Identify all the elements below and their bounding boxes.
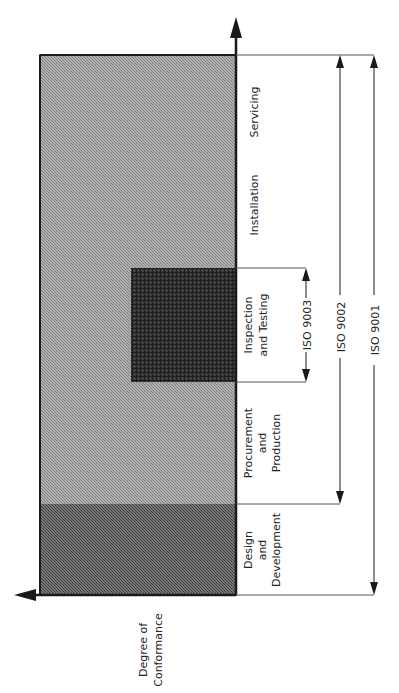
svg-text:Servicing: Servicing bbox=[248, 87, 261, 138]
svg-text:and Testing: and Testing bbox=[257, 294, 270, 357]
iso9002-range bbox=[336, 55, 344, 504]
svg-text:Design: Design bbox=[242, 531, 255, 569]
arrow-left-icon bbox=[14, 589, 36, 601]
svg-text:ISO 9001: ISO 9001 bbox=[369, 305, 382, 355]
iso9001-label: ISO 9001 bbox=[369, 305, 382, 355]
svg-text:Procurement: Procurement bbox=[242, 407, 255, 478]
arrow-down-icon bbox=[336, 491, 344, 504]
design-band bbox=[40, 504, 236, 595]
iso9003-label: ISO 9003 bbox=[301, 300, 314, 350]
svg-text:Development: Development bbox=[270, 512, 283, 587]
svg-text:Production: Production bbox=[270, 414, 283, 473]
arrow-up-icon bbox=[302, 268, 310, 281]
arrow-up-icon bbox=[230, 17, 242, 38]
svg-text:ISO 9002: ISO 9002 bbox=[335, 302, 348, 352]
svg-text:Degree of: Degree of bbox=[137, 622, 150, 677]
arrow-down-icon bbox=[302, 369, 310, 382]
stage-label-installation: Installation bbox=[248, 175, 261, 236]
iso-coverage-diagram: Servicing Installation Inspection and Te… bbox=[0, 0, 399, 693]
svg-text:Inspection: Inspection bbox=[242, 297, 255, 354]
svg-text:Conformance: Conformance bbox=[152, 613, 165, 687]
arrow-down-icon bbox=[370, 582, 378, 595]
arrow-up-icon bbox=[370, 55, 378, 68]
arrow-up-icon bbox=[336, 55, 344, 68]
iso9002-label: ISO 9002 bbox=[335, 302, 348, 352]
svg-text:ISO 9003: ISO 9003 bbox=[301, 300, 314, 350]
svg-text:Installation: Installation bbox=[248, 175, 261, 236]
svg-text:and: and bbox=[256, 433, 269, 454]
inspection-box bbox=[131, 268, 236, 382]
stage-label-inspection: Inspection and Testing bbox=[242, 294, 270, 357]
stage-label-servicing: Servicing bbox=[248, 87, 261, 138]
axis-label-degree-of-conformance: Degree of Conformance bbox=[137, 613, 165, 687]
svg-text:and: and bbox=[256, 540, 269, 561]
stage-label-design: Design and Development bbox=[242, 512, 283, 587]
stage-label-procurement: Procurement and Production bbox=[242, 407, 283, 478]
